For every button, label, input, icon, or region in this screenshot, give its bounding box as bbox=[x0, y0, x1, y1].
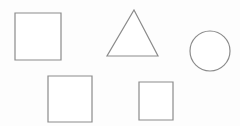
triangle-top-center[interactable] bbox=[107, 10, 158, 56]
shape-canvas bbox=[0, 0, 240, 126]
shape-drawing-surface bbox=[0, 0, 240, 126]
square-bottom-center[interactable] bbox=[139, 82, 173, 120]
circle-top-right[interactable] bbox=[190, 31, 230, 71]
square-large-top-left[interactable] bbox=[15, 13, 61, 60]
square-bottom-left[interactable] bbox=[48, 76, 92, 122]
